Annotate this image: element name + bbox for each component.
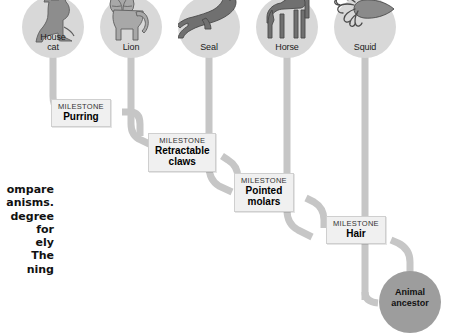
milestone-term: Purring bbox=[58, 111, 104, 122]
body-line: for bbox=[0, 223, 54, 236]
body-line: ning bbox=[0, 263, 54, 276]
body-line: degree bbox=[0, 210, 54, 223]
milestone-kicker: MILESTONE bbox=[241, 176, 287, 185]
squid-icon bbox=[334, 0, 396, 44]
taxon-node-squid[interactable]: Squid bbox=[334, 0, 396, 58]
milestone-term: Retractableclaws bbox=[155, 145, 209, 167]
taxon-label-squid: Squid bbox=[325, 42, 405, 52]
taxon-node-horse[interactable]: Horse bbox=[256, 0, 318, 58]
milestone-term: Hair bbox=[333, 228, 379, 239]
taxon-label-horse: Horse bbox=[247, 42, 327, 52]
milestone-kicker: MILESTONE bbox=[58, 102, 104, 111]
body-line: The bbox=[0, 249, 54, 262]
body-line: ompare bbox=[0, 183, 54, 196]
milestone-pointed-molars[interactable]: MILESTONE Pointedmolars bbox=[234, 173, 294, 212]
milestone-kicker: MILESTONE bbox=[333, 219, 379, 228]
ancestor-label: Animal ancestor bbox=[379, 287, 441, 309]
taxon-node-seal[interactable]: Seal bbox=[178, 0, 240, 58]
lion-icon bbox=[100, 0, 162, 44]
horse-icon bbox=[256, 0, 318, 44]
milestone-retractable-claws[interactable]: MILESTONE Retractableclaws bbox=[148, 133, 216, 172]
milestone-purring[interactable]: MILESTONE Purring bbox=[51, 99, 111, 127]
branch-squid-to-ancestor bbox=[365, 292, 378, 303]
body-line: anisms. bbox=[0, 196, 54, 209]
taxon-label-seal: Seal bbox=[169, 42, 249, 52]
cladogram-figure: Housecat Lion Seal bbox=[0, 0, 451, 336]
seal-icon bbox=[178, 0, 240, 44]
taxon-label-house-cat: Housecat bbox=[13, 32, 93, 52]
taxon-label-lion: Lion bbox=[91, 42, 171, 52]
milestone-term: Pointedmolars bbox=[241, 185, 287, 207]
taxon-node-lion[interactable]: Lion bbox=[100, 0, 162, 58]
milestone-kicker: MILESTONE bbox=[155, 136, 209, 145]
branch-hair-to-ancestor bbox=[391, 240, 410, 274]
milestone-hair[interactable]: MILESTONE Hair bbox=[326, 216, 386, 244]
body-line: ely bbox=[0, 236, 54, 249]
ancestor-node[interactable]: Animal ancestor bbox=[379, 271, 441, 333]
body-paragraph: ompare anisms. degree for ely The ning bbox=[0, 183, 54, 276]
taxon-node-house-cat[interactable]: Housecat bbox=[22, 0, 84, 58]
branch-molars-to-junction bbox=[306, 198, 324, 228]
